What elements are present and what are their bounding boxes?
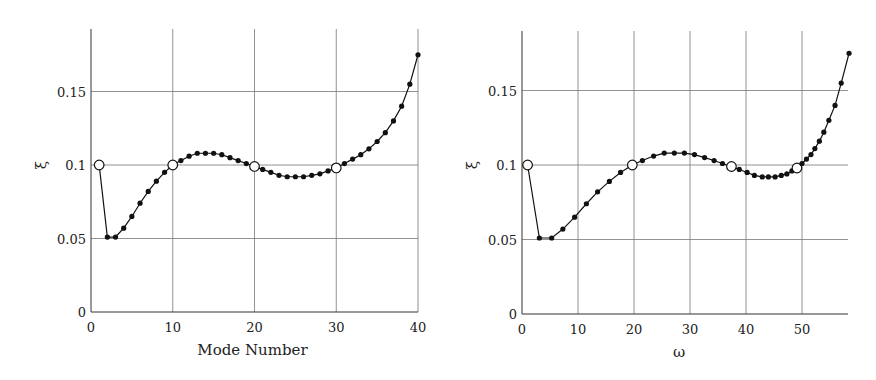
filled-marker: [325, 168, 330, 173]
filled-marker: [584, 201, 589, 206]
filled-marker: [105, 234, 110, 239]
y-axis-label: ξ: [463, 161, 481, 169]
filled-marker: [162, 170, 167, 175]
filled-marker: [682, 150, 687, 155]
filled-marker: [301, 174, 306, 179]
filled-marker: [618, 170, 623, 175]
data-line: [528, 53, 849, 238]
x-tick-label: 20: [626, 322, 643, 337]
filled-marker: [236, 158, 241, 163]
filled-marker: [826, 118, 831, 123]
filled-marker: [745, 170, 750, 175]
open-marker: [94, 160, 104, 170]
filled-marker: [821, 130, 826, 135]
filled-marker: [607, 179, 612, 184]
left-chart-mode-number: 01020304000.050.10.15Mode Numberξ: [32, 29, 426, 359]
filled-marker: [692, 152, 697, 157]
filled-marker: [317, 171, 322, 176]
filled-marker: [137, 201, 142, 206]
filled-marker: [804, 156, 809, 161]
x-axis-label: ω: [673, 343, 685, 361]
filled-marker: [407, 82, 412, 87]
filled-marker: [146, 189, 151, 194]
x-tick-label: 10: [570, 322, 587, 337]
right-chart-omega: 0102030405000.050.10.15ωξ: [463, 31, 852, 361]
filled-marker: [784, 171, 789, 176]
y-tick-label: 0.1: [65, 158, 86, 173]
filled-marker: [415, 52, 420, 57]
filled-marker: [752, 173, 757, 178]
y-tick-label: 0: [78, 305, 86, 320]
y-tick-label: 0: [509, 307, 517, 322]
filled-marker: [766, 174, 771, 179]
open-marker: [250, 162, 260, 172]
filled-marker: [549, 235, 554, 240]
filled-marker: [760, 174, 765, 179]
filled-marker: [154, 179, 159, 184]
y-tick-label: 0.05: [488, 233, 517, 248]
filled-marker: [391, 118, 396, 123]
filled-marker: [651, 153, 656, 158]
filled-marker: [839, 80, 844, 85]
filled-marker: [773, 174, 778, 179]
filled-marker: [799, 161, 804, 166]
x-tick-label: 30: [328, 320, 345, 335]
filled-marker: [672, 150, 677, 155]
y-axis-label: ξ: [32, 161, 50, 169]
y-tick-label: 0.15: [488, 84, 517, 99]
filled-marker: [195, 151, 200, 156]
filled-marker: [227, 155, 232, 160]
x-tick-label: 50: [794, 322, 811, 337]
open-marker: [168, 160, 178, 170]
filled-marker: [358, 152, 363, 157]
filled-marker: [812, 146, 817, 151]
filled-marker: [129, 214, 134, 219]
x-tick-label: 10: [164, 320, 181, 335]
filled-marker: [779, 173, 784, 178]
filled-marker: [720, 161, 725, 166]
filled-marker: [817, 139, 822, 144]
filled-marker: [244, 161, 249, 166]
filled-marker: [572, 215, 577, 220]
filled-marker: [662, 150, 667, 155]
filled-marker: [268, 170, 273, 175]
filled-marker: [537, 235, 542, 240]
filled-marker: [375, 139, 380, 144]
x-tick-label: 0: [87, 320, 95, 335]
filled-marker: [219, 152, 224, 157]
filled-marker: [285, 174, 290, 179]
filled-marker: [846, 51, 851, 56]
filled-marker: [808, 152, 813, 157]
x-axis-label: Mode Number: [197, 341, 308, 359]
filled-marker: [121, 226, 126, 231]
filled-marker: [595, 189, 600, 194]
open-marker: [523, 160, 533, 170]
filled-marker: [309, 173, 314, 178]
x-tick-label: 40: [410, 320, 427, 335]
filled-marker: [350, 157, 355, 162]
filled-marker: [399, 104, 404, 109]
x-tick-label: 20: [246, 320, 263, 335]
filled-marker: [293, 174, 298, 179]
x-tick-label: 0: [518, 322, 526, 337]
filled-marker: [342, 161, 347, 166]
filled-marker: [711, 158, 716, 163]
filled-marker: [737, 167, 742, 172]
filled-marker: [832, 103, 837, 108]
open-marker: [331, 163, 341, 173]
filled-marker: [366, 146, 371, 151]
data-line: [99, 55, 418, 237]
y-tick-label: 0.1: [496, 158, 517, 173]
filled-marker: [702, 155, 707, 160]
filled-marker: [211, 151, 216, 156]
filled-marker: [187, 154, 192, 159]
filled-marker: [113, 234, 118, 239]
filled-marker: [560, 226, 565, 231]
figure: 01020304000.050.10.15Mode Numberξ 010203…: [0, 0, 876, 380]
x-tick-label: 40: [738, 322, 755, 337]
x-tick-label: 30: [682, 322, 699, 337]
filled-marker: [203, 151, 208, 156]
filled-marker: [640, 158, 645, 163]
y-tick-label: 0.15: [57, 85, 86, 100]
filled-marker: [260, 167, 265, 172]
